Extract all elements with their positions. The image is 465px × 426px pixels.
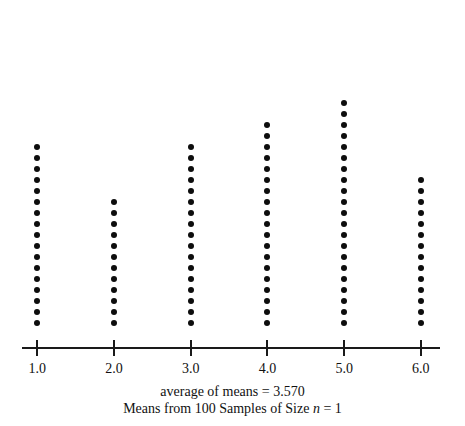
data-dot: [188, 177, 194, 183]
data-dot: [264, 199, 270, 205]
data-dot: [188, 309, 194, 315]
data-dot: [418, 221, 424, 227]
dot-plot-figure: 1.02.03.04.05.06.0 average of means = 3.…: [0, 0, 465, 426]
data-dot: [34, 144, 40, 150]
x-axis-tick-label-6.0: 6.0: [391, 361, 451, 377]
data-dot: [188, 254, 194, 260]
data-dot: [341, 133, 347, 139]
data-dot: [111, 243, 117, 249]
x-axis-tick-3.0: [190, 340, 192, 356]
data-dot: [188, 144, 194, 150]
data-dot: [418, 188, 424, 194]
data-dot: [341, 122, 347, 128]
data-dot: [188, 210, 194, 216]
caption-average-value: 3.570: [273, 384, 305, 399]
x-axis-tick-label-3.0: 3.0: [161, 361, 221, 377]
data-dot: [188, 155, 194, 161]
data-dot: [341, 309, 347, 315]
data-dot: [111, 221, 117, 227]
data-dot: [188, 199, 194, 205]
data-dot: [341, 265, 347, 271]
data-dot: [264, 122, 270, 128]
data-dot: [264, 320, 270, 326]
data-dot: [418, 210, 424, 216]
data-dot: [341, 166, 347, 172]
data-dot: [341, 111, 347, 117]
data-dot: [341, 144, 347, 150]
data-dot: [188, 265, 194, 271]
data-dot: [264, 188, 270, 194]
data-dot: [188, 243, 194, 249]
data-dot: [341, 254, 347, 260]
data-dot: [264, 144, 270, 150]
caption-average-label: average of means =: [160, 384, 273, 399]
x-axis-tick-label-5.0: 5.0: [314, 361, 374, 377]
data-dot: [341, 298, 347, 304]
data-dot: [34, 155, 40, 161]
data-dot: [264, 309, 270, 315]
data-dot: [188, 320, 194, 326]
data-dot: [341, 320, 347, 326]
data-dot: [264, 210, 270, 216]
data-dot: [341, 100, 347, 106]
data-dot: [34, 287, 40, 293]
data-dot: [34, 276, 40, 282]
data-dot: [188, 221, 194, 227]
data-dot: [188, 188, 194, 194]
data-dot: [341, 232, 347, 238]
data-dot: [34, 298, 40, 304]
data-dot: [34, 188, 40, 194]
data-dot: [188, 166, 194, 172]
x-axis-tick-6.0: [420, 340, 422, 356]
data-dot: [341, 177, 347, 183]
data-dot: [341, 210, 347, 216]
data-dot: [264, 287, 270, 293]
data-dot: [418, 243, 424, 249]
caption-sample-suffix: = 1: [320, 401, 342, 416]
caption-sample-variable: n: [313, 401, 320, 416]
caption-sample-prefix: Means from 100 Samples of Size: [123, 401, 313, 416]
data-dot: [34, 210, 40, 216]
data-dot: [188, 232, 194, 238]
data-dot: [264, 155, 270, 161]
x-axis-tick-label-2.0: 2.0: [84, 361, 144, 377]
dot-field: [0, 0, 465, 350]
data-dot: [111, 276, 117, 282]
data-dot: [264, 221, 270, 227]
data-dot: [341, 199, 347, 205]
x-axis-tick-2.0: [113, 340, 115, 356]
data-dot: [111, 210, 117, 216]
caption-block: average of means = 3.570 Means from 100 …: [0, 383, 465, 417]
data-dot: [418, 232, 424, 238]
data-dot: [34, 166, 40, 172]
data-dot: [111, 232, 117, 238]
data-dot: [264, 133, 270, 139]
data-dot: [34, 254, 40, 260]
data-dot: [418, 276, 424, 282]
data-dot: [418, 320, 424, 326]
data-dot: [34, 309, 40, 315]
data-dot: [341, 221, 347, 227]
data-dot: [341, 276, 347, 282]
data-dot: [111, 199, 117, 205]
data-dot: [111, 265, 117, 271]
data-dot: [418, 287, 424, 293]
data-dot: [264, 232, 270, 238]
data-dot: [34, 199, 40, 205]
x-axis-tick-label-4.0: 4.0: [237, 361, 297, 377]
x-axis-line: 1.02.03.04.05.06.0: [22, 347, 440, 349]
data-dot: [34, 243, 40, 249]
data-dot: [418, 254, 424, 260]
data-dot: [418, 309, 424, 315]
caption-average-of-means: average of means = 3.570: [0, 383, 465, 400]
data-dot: [188, 276, 194, 282]
data-dot: [341, 243, 347, 249]
data-dot: [264, 265, 270, 271]
x-axis-tick-4.0: [266, 340, 268, 356]
x-axis-tick-label-1.0: 1.0: [7, 361, 67, 377]
data-dot: [34, 265, 40, 271]
data-dot: [34, 221, 40, 227]
data-dot: [111, 309, 117, 315]
data-dot: [264, 243, 270, 249]
data-dot: [264, 276, 270, 282]
